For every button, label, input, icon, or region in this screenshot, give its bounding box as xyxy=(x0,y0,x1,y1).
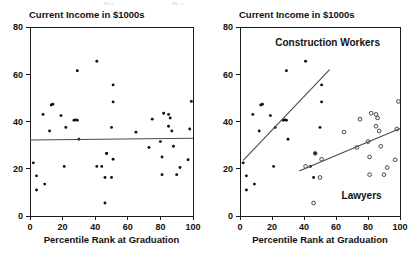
data-point-filled xyxy=(245,189,248,192)
data-point-filled xyxy=(245,174,248,177)
panel-header-left: Current Income in $1000s xyxy=(29,9,145,20)
data-point-filled xyxy=(258,130,261,133)
data-point-filled xyxy=(320,83,323,86)
data-point xyxy=(104,202,107,205)
x-tick-label-left-0: 0 xyxy=(27,222,32,232)
data-point-filled xyxy=(261,103,264,106)
data-point xyxy=(112,83,115,86)
x-axis-title-left: Percentile Rank at Graduation xyxy=(44,234,180,245)
data-point-filled xyxy=(251,113,254,116)
data-point-filled xyxy=(269,114,272,117)
data-point xyxy=(167,113,170,116)
data-point xyxy=(32,161,35,164)
data-point xyxy=(175,173,178,176)
x-tick-label-right-0: 0 xyxy=(237,222,242,232)
data-point xyxy=(162,112,165,115)
data-point-filled xyxy=(285,69,288,72)
data-point xyxy=(190,100,193,103)
data-point-filled xyxy=(304,60,307,63)
data-point xyxy=(35,174,38,177)
y-tick-label-right-80: 80 xyxy=(223,22,233,32)
data-point-filled xyxy=(272,165,275,168)
data-point xyxy=(63,165,66,168)
group-label-construction-workers: Construction Workers xyxy=(275,37,380,48)
data-point-filled xyxy=(285,119,288,122)
x-tick-label-right-20: 20 xyxy=(267,222,277,232)
y-tick-label-right-20: 20 xyxy=(223,164,233,174)
y-tick-label-left-80: 80 xyxy=(13,22,23,32)
data-point xyxy=(172,145,175,148)
data-point xyxy=(48,130,51,133)
data-point xyxy=(110,176,113,179)
panel-header-right: Current Income in $1000s xyxy=(239,9,355,20)
data-point xyxy=(135,131,138,134)
data-point xyxy=(64,126,67,129)
x-tick-label-left-80: 80 xyxy=(155,222,165,232)
data-point xyxy=(95,60,98,63)
x-axis-title-right: Percentile Rank at Graduation xyxy=(252,234,388,245)
data-point xyxy=(104,176,107,179)
data-point xyxy=(151,118,154,121)
data-point xyxy=(159,140,162,143)
data-point xyxy=(105,152,108,155)
data-point xyxy=(110,126,113,129)
x-tick-label-left-40: 40 xyxy=(90,222,100,232)
data-point xyxy=(35,189,38,192)
data-point xyxy=(42,113,45,116)
data-point-filled xyxy=(319,126,322,129)
x-tick-label-right-100: 100 xyxy=(392,222,407,232)
y-tick-label-left-20: 20 xyxy=(13,164,23,174)
data-point-filled xyxy=(320,100,323,103)
data-point xyxy=(95,165,98,168)
data-point xyxy=(112,158,115,161)
data-point-filled xyxy=(312,176,315,179)
data-point xyxy=(112,100,115,103)
x-tick-label-left-60: 60 xyxy=(123,222,133,232)
figure-container: Current Income in $1000s0204060800204060… xyxy=(0,0,415,258)
x-tick-label-right-80: 80 xyxy=(363,222,373,232)
x-tick-label-right-40: 40 xyxy=(299,222,309,232)
scatter-figure-svg: Current Income in $1000s0204060800204060… xyxy=(0,0,415,258)
data-point xyxy=(51,103,54,106)
data-point xyxy=(161,173,164,176)
y-tick-label-right-40: 40 xyxy=(223,117,233,127)
data-point xyxy=(100,165,103,168)
y-tick-label-left-60: 60 xyxy=(13,70,23,80)
y-tick-label-left-0: 0 xyxy=(18,211,23,221)
data-point xyxy=(187,158,190,161)
data-point xyxy=(76,119,79,122)
data-point xyxy=(188,128,191,131)
data-point xyxy=(148,146,151,149)
data-point-filled xyxy=(253,183,256,186)
data-point xyxy=(167,125,170,128)
group-label-lawyers: Lawyers xyxy=(342,190,382,201)
data-point xyxy=(60,114,63,117)
data-point xyxy=(169,117,172,120)
data-point xyxy=(161,155,164,158)
y-tick-label-right-0: 0 xyxy=(228,211,233,221)
x-tick-label-right-60: 60 xyxy=(331,222,341,232)
data-point-filled xyxy=(242,161,245,164)
data-point xyxy=(43,183,46,186)
x-tick-label-left-100: 100 xyxy=(185,222,200,232)
data-point xyxy=(170,130,173,133)
data-point xyxy=(76,69,79,72)
data-point-filled xyxy=(287,138,290,141)
y-tick-label-right-60: 60 xyxy=(223,70,233,80)
y-tick-label-left-40: 40 xyxy=(13,117,23,127)
data-point xyxy=(179,166,182,169)
x-tick-label-left-20: 20 xyxy=(58,222,68,232)
